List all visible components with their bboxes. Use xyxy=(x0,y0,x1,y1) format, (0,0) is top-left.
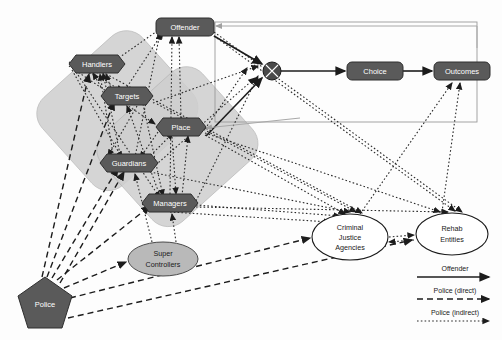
legend-police-direct-label: Police (direct) xyxy=(434,287,477,295)
node-offender[interactable]: Offender xyxy=(156,18,214,36)
node-super-controllers-label-2: Controllers xyxy=(146,260,181,269)
node-place-label: Place xyxy=(172,123,191,132)
node-rehab-label-1: Rehab xyxy=(441,224,462,233)
node-outcomes[interactable]: Outcomes xyxy=(434,62,490,80)
node-criminal-justice-agencies[interactable]: Criminal Justice Agencies xyxy=(312,214,388,260)
node-cja-label-1: Criminal xyxy=(337,223,364,232)
node-police-label: Police xyxy=(35,300,55,309)
node-super-controllers[interactable]: Super Controllers xyxy=(128,242,198,276)
legend-item-offender: Offender xyxy=(417,265,489,277)
node-targets[interactable]: Targets xyxy=(101,87,153,105)
node-guardians-label: Guardians xyxy=(112,159,147,168)
legend-offender-label: Offender xyxy=(441,265,469,272)
node-managers-label: Managers xyxy=(153,199,187,208)
node-outcomes-label: Outcomes xyxy=(445,67,479,76)
edges-offender xyxy=(206,26,477,136)
diagram-svg: Offender Choice Outcomes Handlers Target… xyxy=(0,0,502,340)
legend: Offender Police (direct) Police (indirec… xyxy=(417,265,489,321)
node-place[interactable]: Place xyxy=(156,118,206,136)
node-super-controllers-label-1: Super xyxy=(153,249,173,258)
node-targets-label: Targets xyxy=(115,92,140,101)
node-handlers-label: Handlers xyxy=(82,60,112,69)
junction-crossed-circle[interactable] xyxy=(263,62,281,80)
node-cja-label-3: Agencies xyxy=(335,243,365,252)
diagram-canvas: Offender Choice Outcomes Handlers Target… xyxy=(0,0,502,340)
legend-item-police-direct: Police (direct) xyxy=(417,287,489,299)
node-rehab-label-2: Entities xyxy=(440,235,464,244)
node-managers[interactable]: Managers xyxy=(142,194,198,212)
node-police[interactable]: Police xyxy=(18,277,72,328)
node-choice[interactable]: Choice xyxy=(347,62,403,80)
legend-item-police-indirect: Police (indirect) xyxy=(417,309,489,321)
node-rehab-entities[interactable]: Rehab Entities xyxy=(416,213,488,255)
node-offender-label: Offender xyxy=(170,23,200,32)
node-choice-label: Choice xyxy=(363,67,386,76)
node-cja-label-2: Justice xyxy=(339,233,361,242)
node-handlers[interactable]: Handlers xyxy=(69,55,125,73)
node-guardians[interactable]: Guardians xyxy=(100,154,158,172)
legend-police-indirect-label: Police (indirect) xyxy=(431,309,479,317)
